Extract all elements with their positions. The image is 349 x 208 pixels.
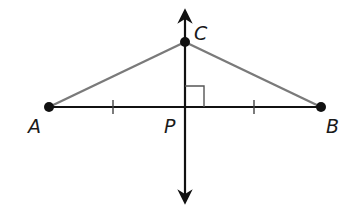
right-angle-marker: [185, 86, 204, 107]
label-a: A: [26, 115, 41, 137]
segment-ac: [49, 42, 185, 107]
segment-cb: [185, 42, 321, 107]
point-c: [180, 37, 190, 47]
label-c: C: [194, 22, 208, 44]
point-b: [316, 102, 326, 112]
label-b: B: [326, 115, 339, 137]
label-p: P: [164, 115, 176, 137]
geometry-diagram: A B C P: [0, 0, 349, 208]
point-a: [44, 102, 54, 112]
